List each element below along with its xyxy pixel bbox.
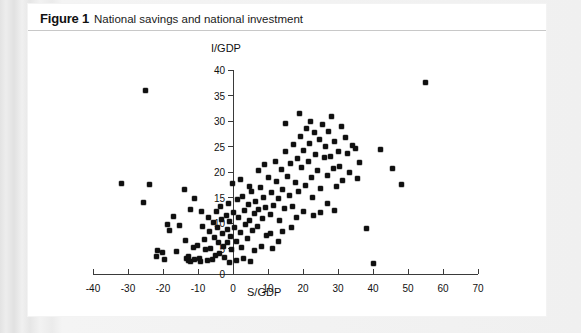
data-point: [343, 135, 348, 140]
data-point: [293, 180, 298, 185]
data-point: [276, 196, 281, 201]
x-tick-label: -10: [191, 283, 205, 294]
data-point: [183, 238, 188, 243]
x-tick-label: -20: [156, 283, 170, 294]
data-point: [312, 130, 317, 135]
data-point: [345, 151, 350, 156]
y-tick-label: 30: [205, 116, 225, 127]
data-point: [239, 245, 244, 250]
data-point: [309, 175, 314, 180]
data-point: [313, 152, 318, 157]
data-point: [399, 182, 404, 187]
data-point: [165, 222, 170, 227]
y-tick-label: 0: [205, 269, 225, 280]
data-point: [390, 166, 395, 171]
data-point: [171, 214, 176, 219]
data-point: [160, 250, 165, 255]
data-point: [326, 129, 331, 134]
data-point: [167, 228, 172, 233]
data-point: [269, 190, 274, 195]
data-point: [337, 164, 342, 169]
data-point: [291, 142, 296, 147]
data-point: [207, 229, 212, 234]
scatter-plot: I/GDP S/GDP -40-30-20-100102030405060700…: [28, 30, 546, 316]
data-point: [325, 173, 330, 178]
data-point: [371, 261, 376, 266]
data-point: [188, 207, 193, 212]
data-point: [353, 146, 358, 151]
data-point: [274, 179, 279, 184]
data-point: [217, 251, 222, 256]
data-point: [315, 168, 320, 173]
data-point: [249, 189, 254, 194]
data-point: [198, 259, 203, 264]
x-tick-label: -40: [86, 283, 100, 294]
data-point: [256, 207, 261, 212]
data-point: [230, 181, 235, 186]
y-tick-label: 15: [205, 192, 225, 203]
data-point: [268, 231, 273, 236]
data-point: [280, 229, 285, 234]
data-point: [246, 202, 251, 207]
x-tick-label: 10: [262, 283, 273, 294]
data-point: [332, 139, 337, 144]
data-point: [260, 216, 265, 221]
data-point: [340, 178, 345, 183]
data-point: [119, 181, 124, 186]
data-point: [240, 194, 245, 199]
data-point: [259, 244, 264, 249]
data-point: [304, 126, 309, 131]
data-point: [214, 209, 219, 214]
data-point: [238, 177, 243, 182]
figure-label: Figure 1: [40, 11, 89, 26]
data-point: [310, 195, 315, 200]
data-point: [328, 154, 333, 159]
data-point: [299, 165, 304, 170]
data-point: [287, 193, 292, 198]
data-point: [255, 224, 260, 229]
data-point: [258, 185, 263, 190]
data-point: [378, 147, 383, 152]
data-point: [283, 149, 288, 154]
data-point: [306, 159, 311, 164]
data-point: [216, 240, 221, 245]
data-point: [298, 134, 303, 139]
data-point: [307, 141, 312, 146]
data-point: [339, 124, 344, 129]
data-point: [224, 213, 229, 218]
data-point: [192, 196, 197, 201]
data-point: [277, 218, 282, 223]
figure-title: National savings and national investment: [94, 13, 303, 25]
data-point: [294, 215, 299, 220]
data-point: [266, 175, 271, 180]
data-point: [248, 259, 253, 264]
data-point: [318, 186, 323, 191]
data-point: [308, 119, 313, 124]
data-point: [256, 168, 261, 173]
data-point: [200, 224, 205, 229]
data-point: [262, 162, 267, 167]
data-point: [303, 183, 308, 188]
data-point: [147, 182, 152, 187]
data-point: [154, 254, 159, 259]
data-point: [320, 122, 325, 127]
data-point: [288, 161, 293, 166]
data-point: [280, 187, 285, 192]
data-point: [242, 208, 247, 213]
data-point: [220, 231, 225, 236]
data-point: [202, 237, 207, 242]
data-point: [232, 225, 237, 230]
y-tick-label: 40: [205, 65, 225, 76]
data-point: [252, 248, 257, 253]
figure-box: Figure 1National savings and national in…: [28, 4, 546, 316]
data-point: [208, 246, 213, 251]
data-point: [228, 234, 233, 239]
data-point: [332, 208, 337, 213]
data-point: [226, 201, 231, 206]
data-point: [295, 156, 300, 161]
data-point: [336, 149, 341, 154]
data-point: [347, 170, 352, 175]
x-tick-label: 50: [402, 283, 413, 294]
data-point: [229, 247, 234, 252]
y-tick-label: 25: [205, 141, 225, 152]
